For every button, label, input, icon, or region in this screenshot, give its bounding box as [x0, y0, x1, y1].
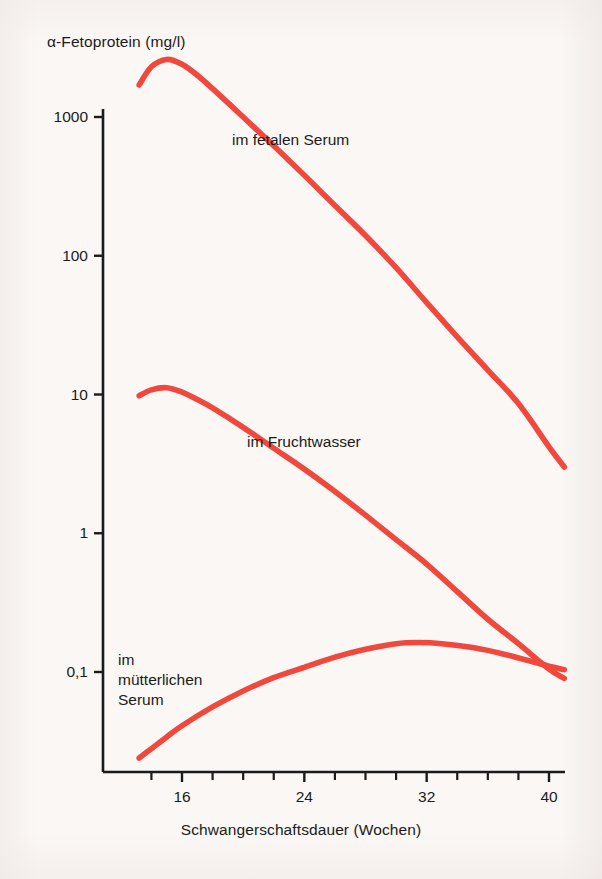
x-axis-title: Schwangerschaftsdauer (Wochen) [181, 821, 422, 839]
series-label-amniotic-fluid: im Fruchtwasser [247, 432, 361, 452]
y-tick-label: 1 [0, 524, 88, 542]
y-tick-label: 10 [0, 386, 88, 404]
series-line-2 [139, 643, 564, 758]
series-line-0 [139, 59, 564, 467]
y-tick-label: 100 [0, 247, 88, 265]
series-label-fetal-serum: im fetalen Serum [232, 130, 349, 150]
x-tick-label: 24 [296, 788, 313, 806]
y-tick-label: 0,1 [0, 663, 88, 681]
series-label-maternal-serum: im mütterlichen Serum [118, 650, 202, 710]
x-tick-label: 32 [418, 788, 435, 806]
x-tick-label: 16 [173, 788, 190, 806]
y-tick-label: 1000 [0, 108, 88, 126]
x-tick-label: 40 [540, 788, 557, 806]
data-series [139, 59, 564, 758]
chart-figure: α-Fetoprotein (mg/l) 10001001010,1 16243… [0, 0, 602, 879]
